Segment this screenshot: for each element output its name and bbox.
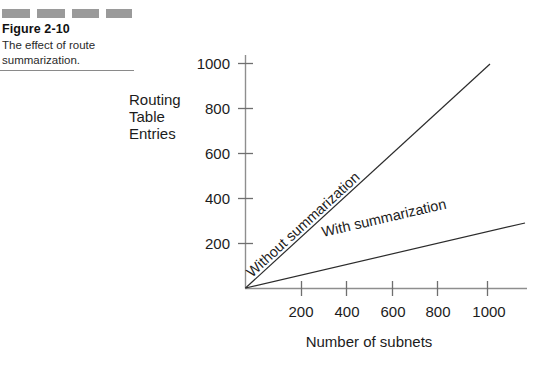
y-tick-label: 800 (205, 100, 230, 117)
chart-figure: 1000 800 600 400 200 200 400 600 800 100… (120, 0, 546, 367)
decorative-dash (72, 9, 99, 18)
y-axis-title-line-2: Table (129, 108, 165, 125)
y-tick-label: 400 (205, 190, 230, 207)
decorative-dash (2, 9, 30, 18)
y-tick-label: 200 (205, 235, 230, 252)
figure-number: Figure 2-10 (2, 22, 70, 36)
y-tick-label: 1000 (197, 55, 230, 72)
x-tick-label: 200 (288, 303, 313, 320)
chart-svg: 1000 800 600 400 200 200 400 600 800 100… (120, 0, 546, 367)
figure-caption-text: The effect of route summarization. (2, 38, 130, 68)
x-axis-title: Number of subnets (306, 333, 433, 350)
decorative-dash (37, 9, 65, 18)
y-axis-title-line-1: Routing (129, 91, 181, 108)
x-tick-label: 400 (334, 303, 359, 320)
x-tick-label: 800 (425, 303, 450, 320)
x-tick-label: 600 (380, 303, 405, 320)
y-axis-title-line-3: Entries (129, 125, 176, 142)
caption-divider-rule (0, 70, 134, 71)
y-tick-label: 600 (205, 145, 230, 162)
x-tick-label: 1000 (472, 303, 505, 320)
decorative-dash-row (2, 9, 134, 18)
